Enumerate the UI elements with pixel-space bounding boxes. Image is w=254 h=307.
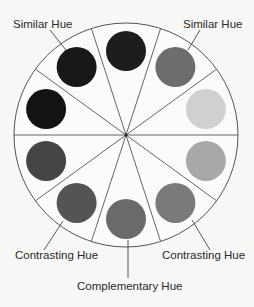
hue-disc-similar-left [57, 47, 97, 87]
hue-disc [186, 89, 226, 129]
hue-disc-complementary [106, 199, 146, 239]
label-similar-hue-left: Similar Hue [13, 19, 72, 31]
label-contrasting-hue-left: Contrasting Hue [15, 250, 98, 262]
label-complementary-hue: Complementary Hue [77, 281, 182, 293]
hue-disc [26, 89, 66, 129]
hue-disc-similar-right [155, 47, 195, 87]
hue-disc-contrasting-left [57, 183, 97, 223]
label-similar-hue-right: Similar Hue [183, 19, 242, 31]
hue-disc [26, 141, 66, 181]
hue-disc-contrasting-right [155, 183, 195, 223]
leader-contrasting-left [44, 221, 63, 250]
leader-contrasting-right [192, 220, 210, 250]
center-point [125, 134, 128, 137]
label-contrasting-hue-right: Contrasting Hue [162, 250, 245, 262]
hue-disc-base [106, 31, 146, 71]
hue-disc [186, 141, 226, 181]
